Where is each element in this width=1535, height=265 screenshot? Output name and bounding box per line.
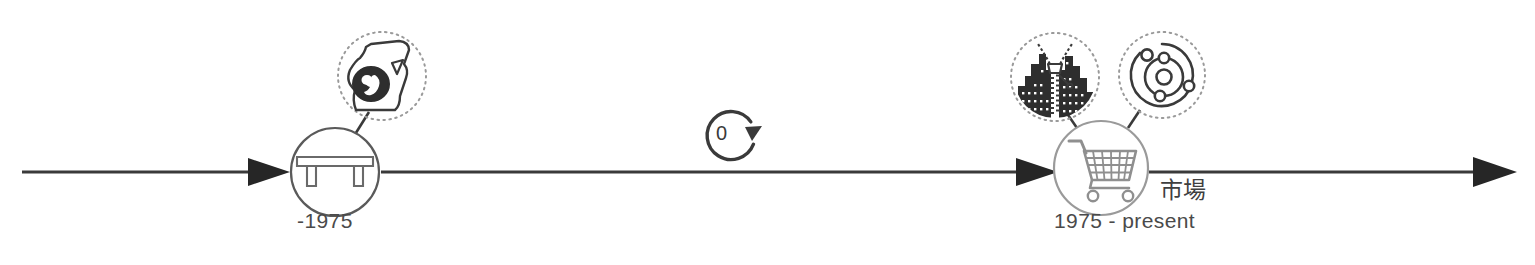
market-annotation-label: 市場 xyxy=(1160,171,1207,205)
refresh-cycle-icon xyxy=(704,109,762,163)
axis-arrowhead-1 xyxy=(248,158,290,186)
axis-segment-middle xyxy=(381,158,1058,186)
orbit-node-upper-left xyxy=(1141,49,1152,60)
milestone-bridge[interactable] xyxy=(291,128,379,216)
orbit-node-bottom xyxy=(1155,91,1165,101)
orbit-atom-icon xyxy=(1131,44,1194,106)
satellite-pregnancy[interactable] xyxy=(338,32,426,120)
milestone-cart[interactable] xyxy=(1054,121,1148,215)
axis-segment-start xyxy=(22,158,290,186)
satellite-orbit[interactable] xyxy=(1119,32,1205,118)
axis-arrowhead-2 xyxy=(1016,158,1058,186)
milestone-cart-label: 1975 - present xyxy=(1054,209,1195,233)
milestone-bridge-label: -1975 xyxy=(297,209,353,233)
pregnancy-fetus-icon xyxy=(348,41,409,110)
city-zipper-icon xyxy=(1018,44,1093,118)
satellite-city-zipper[interactable] xyxy=(1011,33,1099,121)
orbit-node-top xyxy=(1159,53,1169,63)
milestone-bridge-circle[interactable] xyxy=(291,128,379,216)
cycle-marker-value: 0 xyxy=(716,122,727,145)
connector-cart-to-orbit xyxy=(1128,110,1140,128)
refresh-arrowhead xyxy=(745,126,762,141)
milestone-cart-circle[interactable] xyxy=(1054,121,1148,215)
orbit-node-right xyxy=(1184,81,1194,91)
timeline-diagram: -1975 1975 - present 市場 0 xyxy=(0,0,1535,265)
axis-arrowhead-3 xyxy=(1473,157,1517,187)
timeline-canvas xyxy=(0,0,1535,265)
